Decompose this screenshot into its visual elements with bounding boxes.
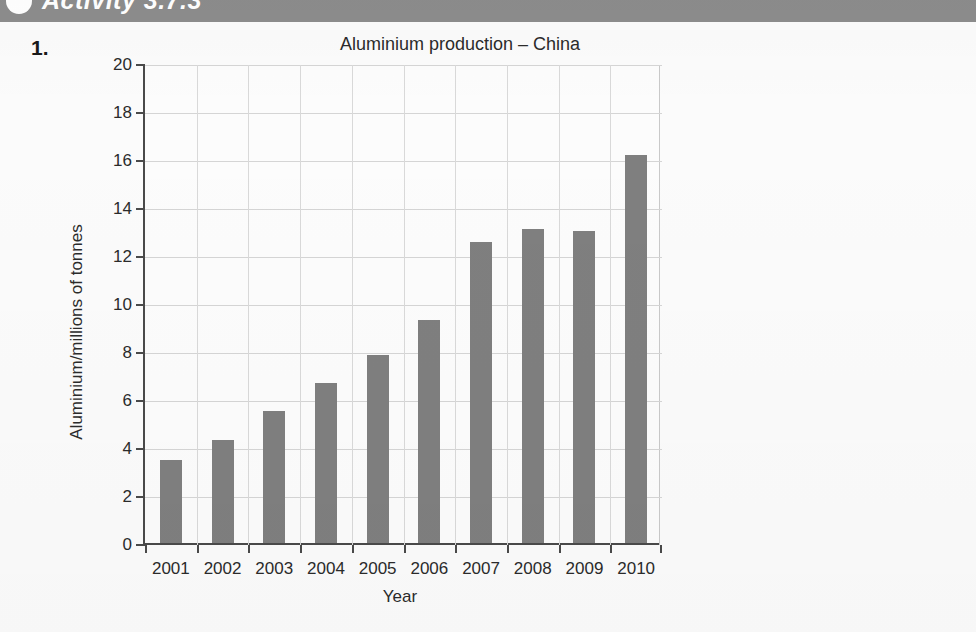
x-axis-tick-label: 2007 <box>462 559 500 579</box>
gridline-vertical <box>404 65 405 545</box>
gridline-vertical <box>559 65 560 545</box>
y-axis-tick-label: 12 <box>113 247 132 267</box>
y-axis-tick-label: 20 <box>113 55 132 75</box>
bar <box>315 383 337 543</box>
y-axis-tick-label: 14 <box>113 199 132 219</box>
x-axis-tick-label: 2003 <box>255 559 293 579</box>
gridline-vertical <box>610 65 611 545</box>
bar <box>418 320 440 543</box>
x-axis-tick-label: 2006 <box>410 559 448 579</box>
bar <box>470 242 492 543</box>
x-axis-tick-label: 2001 <box>152 559 190 579</box>
y-axis-tick-label: 0 <box>123 535 132 555</box>
y-axis-tick-label: 10 <box>113 295 132 315</box>
gridline-vertical <box>352 65 353 545</box>
x-axis-tick <box>300 545 302 553</box>
x-axis-tick <box>197 545 199 553</box>
y-axis-tick <box>136 304 145 306</box>
gridline-vertical <box>248 65 249 545</box>
bar <box>212 440 234 543</box>
y-axis-tick <box>136 496 145 498</box>
bar <box>263 411 285 543</box>
y-axis-tick <box>136 544 145 546</box>
x-axis-tick-label: 2009 <box>566 559 604 579</box>
x-axis-tick <box>145 545 147 553</box>
gridline-vertical <box>507 65 508 545</box>
x-axis-tick-label: 2010 <box>617 559 655 579</box>
activity-banner: Activity 3.7.3 <box>0 0 976 22</box>
y-axis-tick <box>136 352 145 354</box>
x-axis-tick <box>455 545 457 553</box>
gridline-vertical <box>455 65 456 545</box>
y-axis-tick <box>136 160 145 162</box>
bar <box>522 229 544 543</box>
y-axis-tick-label: 6 <box>123 391 132 411</box>
x-axis-tick <box>404 545 406 553</box>
worksheet-page: 1. Aluminium production – China Aluminiu… <box>0 22 976 632</box>
x-axis-tick <box>559 545 561 553</box>
y-axis-tick <box>136 64 145 66</box>
y-axis-title: Aluminium/millions of tonnes <box>67 172 87 492</box>
y-axis-tick <box>136 208 145 210</box>
x-axis-tick-label: 2005 <box>359 559 397 579</box>
x-axis-tick-label: 2008 <box>514 559 552 579</box>
y-axis-tick-label: 4 <box>123 439 132 459</box>
gridline-vertical <box>197 65 198 545</box>
activity-banner-title: Activity 3.7.3 <box>42 0 202 15</box>
x-axis-tick <box>352 545 354 553</box>
bar <box>573 231 595 543</box>
y-axis-tick <box>136 112 145 114</box>
x-axis-tick <box>248 545 250 553</box>
bar-chart-figure: Aluminium production – China Aluminium/m… <box>0 22 976 632</box>
bar <box>367 355 389 543</box>
y-axis-tick <box>136 448 145 450</box>
y-axis-tick <box>136 400 145 402</box>
y-axis-tick-label: 2 <box>123 487 132 507</box>
plot-area: 02468101214161820 2001200220032004200520… <box>143 65 660 545</box>
x-axis-tick <box>507 545 509 553</box>
x-axis-tick-label: 2002 <box>204 559 242 579</box>
gridline-vertical <box>300 65 301 545</box>
x-axis-tick <box>660 545 662 553</box>
x-axis-tick <box>610 545 612 553</box>
circle-bullet-icon <box>6 0 32 14</box>
y-axis-tick <box>136 256 145 258</box>
x-axis-tick-label: 2004 <box>307 559 345 579</box>
chart-title: Aluminium production – China <box>260 34 660 55</box>
y-axis-tick-label: 16 <box>113 151 132 171</box>
bar <box>625 155 647 543</box>
x-axis-title: Year <box>140 587 660 607</box>
bar <box>160 460 182 543</box>
y-axis-tick-label: 18 <box>113 103 132 123</box>
y-axis-tick-label: 8 <box>123 343 132 363</box>
